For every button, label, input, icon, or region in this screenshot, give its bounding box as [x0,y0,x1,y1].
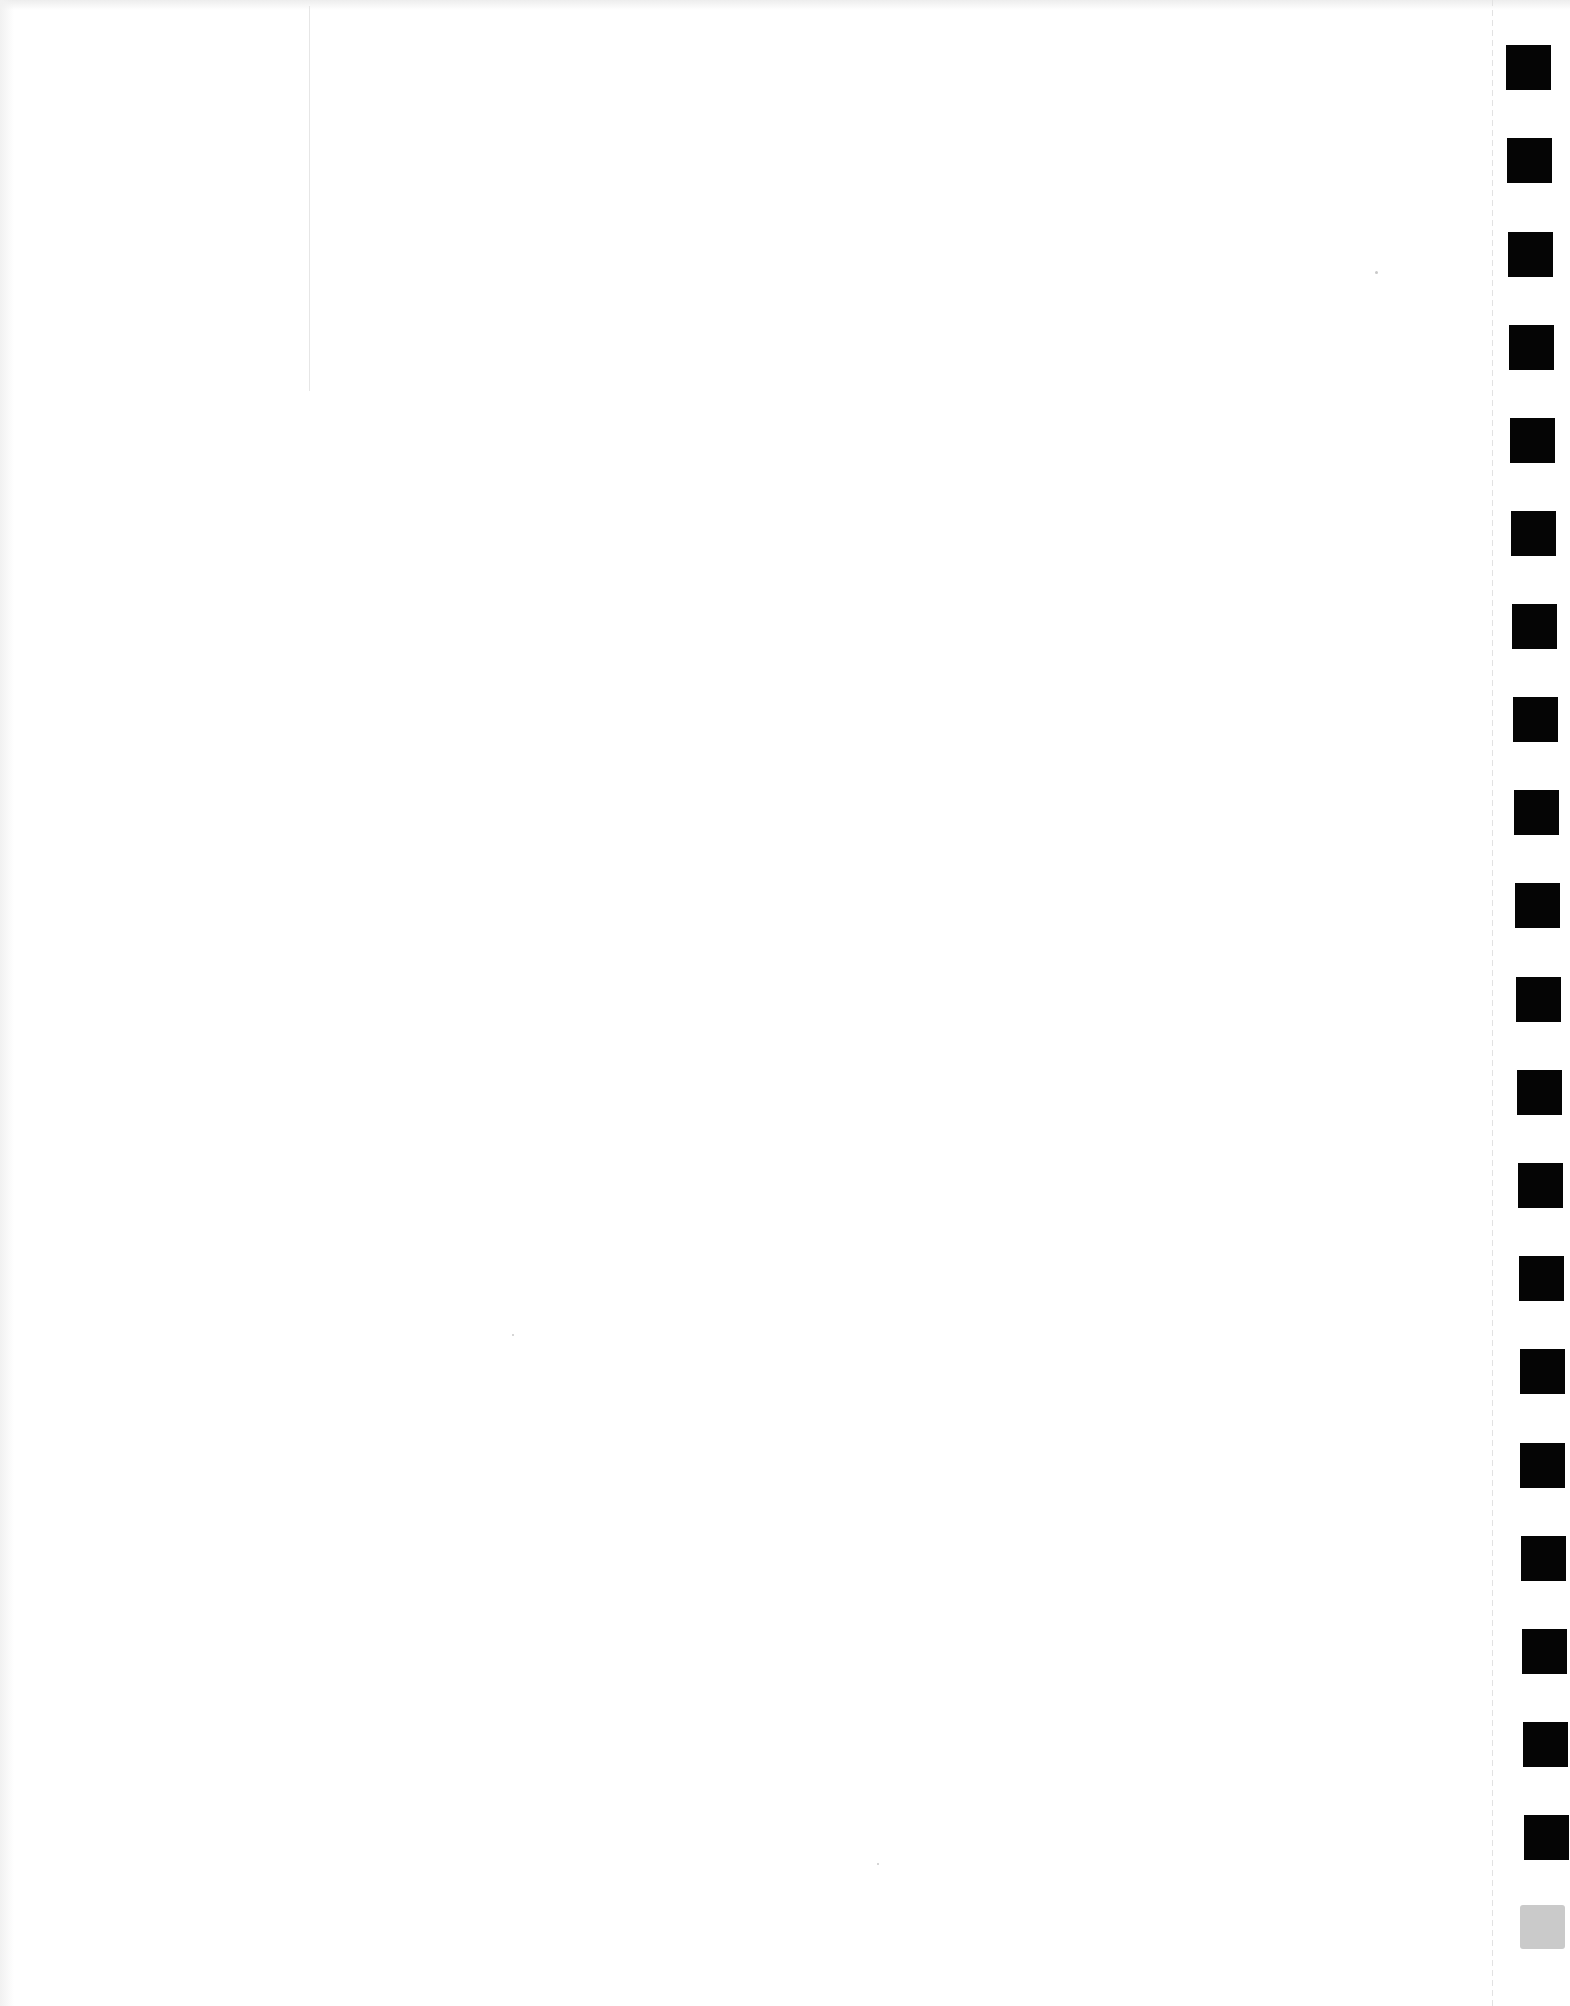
binding-mark-square [1524,1815,1569,1860]
document-page [0,0,1570,2006]
binding-mark-square [1514,790,1559,835]
binding-marks-strip [0,0,1570,2006]
binding-mark-square [1520,1349,1565,1394]
binding-mark-square [1515,883,1560,928]
binding-mark-square [1523,1722,1568,1767]
binding-mark-square [1511,511,1556,556]
binding-mark-square [1518,1163,1563,1208]
binding-mark-square [1521,1536,1566,1581]
binding-mark-square [1508,232,1553,277]
binding-mark-square [1506,45,1551,90]
binding-mark-square [1507,138,1552,183]
binding-mark-square [1522,1629,1567,1674]
binding-mark-square [1509,325,1554,370]
binding-mark-square [1517,1070,1562,1115]
binding-mark-square [1513,697,1558,742]
binding-mark-square [1516,977,1561,1022]
binding-mark-square [1510,418,1555,463]
binding-mark-square [1512,604,1557,649]
binding-mark-square [1519,1256,1564,1301]
binding-mark-square [1520,1443,1565,1488]
grey-tab-mark [1520,1905,1565,1949]
